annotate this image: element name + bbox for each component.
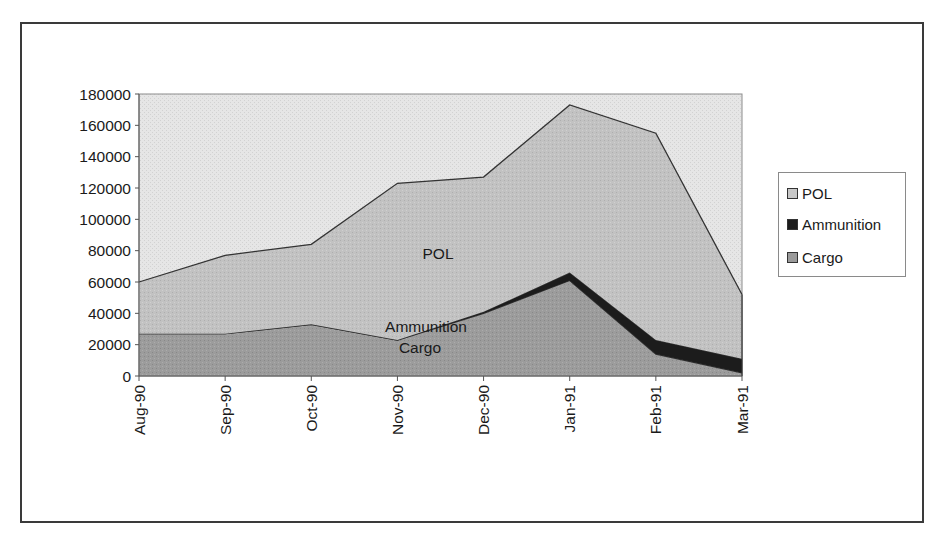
y-tick-label: 120000 bbox=[79, 180, 131, 197]
legend: POL Ammunition Cargo bbox=[778, 172, 906, 277]
y-axis: 0200004000060000800001000001200001400001… bbox=[79, 86, 139, 385]
y-tick-label: 60000 bbox=[88, 274, 131, 291]
x-tick-label: Feb-91 bbox=[647, 385, 664, 434]
x-tick-label: Aug-90 bbox=[131, 385, 148, 435]
y-tick-label: 180000 bbox=[79, 86, 131, 103]
legend-swatch-cargo-icon bbox=[787, 252, 798, 263]
y-tick-label: 100000 bbox=[79, 211, 131, 228]
annotation-ammunition: Ammunition bbox=[385, 318, 467, 335]
y-tick-label: 20000 bbox=[88, 336, 131, 353]
x-tick-label: Mar-91 bbox=[734, 385, 751, 434]
x-tick-label: Oct-90 bbox=[303, 385, 320, 432]
annotation-pol: POL bbox=[422, 245, 453, 262]
legend-swatch-ammunition-icon bbox=[787, 219, 798, 230]
x-tick-label: Dec-90 bbox=[475, 385, 492, 435]
legend-swatch-pol-icon bbox=[787, 188, 798, 199]
legend-item-pol: POL bbox=[787, 185, 832, 202]
legend-item-ammunition: Ammunition bbox=[787, 216, 881, 233]
y-tick-label: 0 bbox=[122, 368, 131, 385]
x-tick-label: Nov-90 bbox=[389, 385, 406, 435]
x-axis: Aug-90Sep-90Oct-90Nov-90Dec-90Jan-91Feb-… bbox=[131, 376, 751, 435]
legend-label-cargo: Cargo bbox=[802, 249, 843, 266]
y-tick-label: 160000 bbox=[79, 117, 131, 134]
legend-label-pol: POL bbox=[802, 185, 832, 202]
y-tick-label: 140000 bbox=[79, 148, 131, 165]
y-tick-label: 80000 bbox=[88, 242, 131, 259]
annotation-cargo: Cargo bbox=[399, 339, 441, 356]
x-tick-label: Jan-91 bbox=[561, 385, 578, 432]
y-tick-label: 40000 bbox=[88, 305, 131, 322]
legend-label-ammunition: Ammunition bbox=[802, 216, 881, 233]
x-tick-label: Sep-90 bbox=[217, 385, 234, 435]
legend-item-cargo: Cargo bbox=[787, 249, 843, 266]
